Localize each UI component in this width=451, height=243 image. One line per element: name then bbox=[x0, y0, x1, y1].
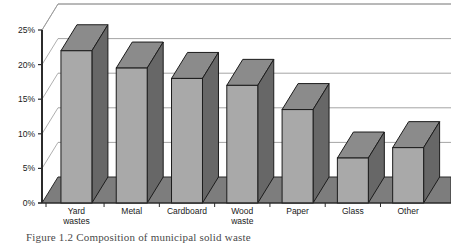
bar-side-face bbox=[147, 42, 163, 203]
y-tick-label-15%: 15% bbox=[18, 94, 35, 104]
bar-front-face bbox=[393, 148, 424, 203]
bar-front-face bbox=[227, 85, 258, 203]
bar-front-face bbox=[282, 110, 313, 203]
x-axis-label-metal: Metal bbox=[121, 206, 142, 216]
y-tick-label-20%: 20% bbox=[18, 60, 35, 70]
bar-paper bbox=[282, 84, 329, 203]
bar-front-face bbox=[172, 78, 203, 203]
bar-side-face bbox=[92, 25, 108, 203]
gridline-connector-5% bbox=[42, 142, 58, 168]
bar-front-face bbox=[61, 51, 92, 203]
bar-front-face bbox=[116, 68, 147, 203]
x-axis-label-wood-waste: Woodwaste bbox=[230, 206, 253, 226]
x-axis-label-paper: Paper bbox=[286, 206, 309, 216]
bar-side-face bbox=[258, 59, 274, 203]
gridline-connector-20% bbox=[42, 39, 58, 65]
x-axis-label-yard-wastes: Yardwastes bbox=[62, 206, 89, 226]
bar-metal bbox=[116, 42, 163, 203]
y-tick-label-5%: 5% bbox=[23, 163, 36, 173]
bar-side-face bbox=[202, 52, 218, 203]
bar-front-face bbox=[337, 158, 368, 203]
y-tick-label-10%: 10% bbox=[18, 129, 35, 139]
bar-yard-wastes bbox=[61, 25, 108, 203]
y-tick-label-0%: 0% bbox=[23, 198, 36, 208]
bar-cardboard bbox=[172, 52, 219, 203]
x-axis-label-glass: Glass bbox=[342, 206, 364, 216]
x-axis-label-other: Other bbox=[398, 206, 419, 216]
gridline-connector-10% bbox=[42, 108, 58, 134]
gridline-connector-15% bbox=[42, 73, 58, 99]
y-axis-top-connector bbox=[42, 4, 58, 30]
y-tick-label-25%: 25% bbox=[18, 25, 35, 35]
figure-caption: Figure 1.2 Composition of municipal soli… bbox=[26, 231, 251, 243]
bar-wood-waste bbox=[227, 59, 274, 203]
x-axis-label-cardboard: Cardboard bbox=[167, 206, 207, 216]
